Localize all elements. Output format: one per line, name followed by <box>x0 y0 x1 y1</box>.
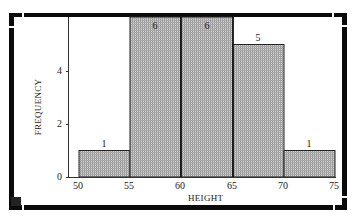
x-tick-label: 75 <box>329 181 339 191</box>
bar-60-65 <box>181 17 233 177</box>
x-tick-label: 60 <box>175 181 185 191</box>
y-tick-label: 0 <box>57 172 62 182</box>
x-axis-title: HEIGHT <box>188 193 223 203</box>
bar-value-label: 6 <box>197 20 217 31</box>
bar-value-label: 1 <box>94 138 114 149</box>
bar-50-55 <box>79 151 130 178</box>
bar-55-60 <box>130 17 181 177</box>
bar-65-70 <box>233 45 284 178</box>
x-tick-label: 55 <box>124 181 134 191</box>
bar-value-label: 5 <box>248 32 268 43</box>
x-tick-label: 50 <box>73 181 83 191</box>
bar-value-label: 1 <box>299 138 319 149</box>
y-axis-title: FREQUENCY <box>33 67 43 147</box>
y-tick-label: 4 <box>57 66 62 76</box>
bar-70-75 <box>284 151 335 178</box>
histogram-bars <box>79 17 335 177</box>
x-tick-label: 65 <box>227 181 237 191</box>
bar-value-label: 6 <box>145 20 165 31</box>
x-tick-label: 70 <box>278 181 288 191</box>
y-tick-label: 2 <box>57 119 62 129</box>
